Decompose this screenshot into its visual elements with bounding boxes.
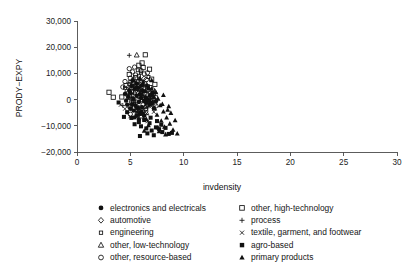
legend-item: other, high-technology [240, 203, 335, 213]
data-point [133, 122, 137, 126]
legend-marker-plus [239, 218, 244, 223]
data-point [152, 110, 156, 114]
data-point [173, 118, 178, 123]
y-tick-label: 0 [66, 96, 71, 105]
legend-marker-filled-triangle [239, 255, 244, 260]
y-axis-ticks [74, 21, 78, 152]
data-point [129, 116, 133, 120]
legend-item: electronics and electricals [99, 203, 206, 213]
legend-label: textile, garment, and footwear [251, 227, 362, 237]
y-tick-label: −10,000 [41, 122, 71, 131]
x-tick-label: 20 [286, 158, 296, 167]
data-point [155, 119, 159, 123]
legend-label: primary products [251, 252, 313, 262]
legend-marker-cross [240, 231, 244, 235]
x-tick-label: 10 [179, 158, 189, 167]
x-tick-label: 15 [232, 158, 242, 167]
legend-item: agro-based [240, 240, 294, 250]
legend-label: agro-based [251, 240, 294, 250]
data-point [153, 82, 157, 86]
y-tick-label: 10,000 [46, 69, 71, 78]
legend-label: engineering [110, 227, 154, 237]
legend-item: process [239, 215, 280, 225]
legend-item: engineering [99, 227, 154, 237]
legend-marker-filled-circle [99, 206, 104, 211]
x-tick-label: 5 [128, 158, 133, 167]
y-tick-label: 20,000 [46, 43, 71, 52]
legend-marker-filled-square [240, 243, 244, 247]
y-tick-label: 30,000 [46, 17, 71, 26]
data-point [120, 95, 124, 99]
data-point [137, 120, 141, 124]
data-point [167, 121, 172, 126]
legend-item: primary products [239, 252, 313, 262]
data-point [138, 134, 142, 138]
plot-canvas: −20,000−10,000010,00020,00030,000 051015… [0, 0, 412, 277]
data-point [139, 124, 143, 128]
scatter-plot-figure: −20,000−10,000010,00020,00030,000 051015… [0, 0, 412, 277]
data-point [140, 112, 144, 116]
x-tick-label: 25 [339, 158, 349, 167]
legend-label: other, resource-based [110, 252, 192, 262]
legend-marker-open-square [240, 206, 245, 211]
x-tick-label: 0 [75, 158, 80, 167]
legend-label: electronics and electricals [110, 203, 206, 213]
legend-item: other, resource-based [99, 252, 192, 262]
legend-item: textile, garment, and footwear [240, 227, 362, 237]
legend-label: automotive [110, 215, 151, 225]
legend-marker-open-triangle [98, 242, 103, 247]
data-point [117, 100, 121, 104]
data-point [107, 90, 111, 94]
x-axis-ticks [77, 152, 397, 156]
data-point [175, 131, 180, 136]
y-axis-title: PRODY−EXPY [14, 58, 24, 117]
legend-label: other, high-technology [251, 203, 334, 213]
y-tick-label: −20,000 [41, 148, 71, 157]
legend-item: automotive [98, 215, 151, 225]
data-point [171, 127, 176, 132]
legend-marker-open-diamond [98, 217, 103, 223]
data-point [166, 104, 171, 109]
legend: electronics and electricalsautomotiveeng… [98, 203, 361, 263]
x-axis-tick-labels: 051015202530 [75, 158, 402, 167]
data-point [149, 116, 153, 120]
data-point [143, 53, 147, 57]
y-axis-tick-labels: −20,000−10,000010,00020,00030,000 [41, 17, 71, 157]
data-point [159, 123, 163, 127]
data-point [152, 133, 156, 137]
legend-item: other, low-technology [98, 240, 190, 250]
x-axis-title: invdensity [203, 182, 242, 192]
legend-marker-open-circle [99, 255, 104, 260]
x-tick-label: 30 [392, 158, 402, 167]
data-point [123, 107, 127, 111]
data-point [127, 53, 132, 58]
data-point [150, 129, 154, 133]
data-point [135, 114, 139, 118]
data-point [111, 95, 115, 99]
legend-marker-small-open-square [99, 231, 102, 234]
data-point [164, 115, 169, 120]
legend-label: process [251, 215, 280, 225]
data-point [122, 115, 126, 119]
data-point-cloud [107, 52, 180, 138]
data-point [121, 85, 125, 89]
data-point [132, 65, 136, 69]
legend-label: other, low-technology [110, 240, 190, 250]
x-axis: 051015202530 [75, 152, 402, 167]
y-axis: −20,000−10,000010,00020,00030,000 [41, 17, 77, 157]
data-point [161, 93, 166, 98]
data-point [161, 109, 166, 114]
data-point [137, 76, 142, 81]
data-point [159, 118, 164, 123]
data-point [134, 52, 139, 57]
data-point [125, 110, 129, 114]
